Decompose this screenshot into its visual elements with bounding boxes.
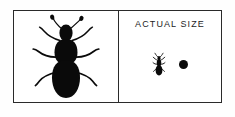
actual-size-label: ACTUAL SIZE bbox=[119, 19, 221, 30]
beetle-icon bbox=[152, 52, 166, 76]
actual-size-panel: ACTUAL SIZE bbox=[119, 11, 221, 102]
figure-frame: ACTUAL SIZE bbox=[13, 10, 222, 103]
dot-icon bbox=[179, 60, 188, 69]
beetle-icon bbox=[27, 13, 105, 101]
actual-size-comparison-row bbox=[119, 47, 221, 81]
magnified-specimen-panel bbox=[14, 11, 118, 102]
insect-identification-figure: ACTUAL SIZE bbox=[0, 0, 235, 117]
